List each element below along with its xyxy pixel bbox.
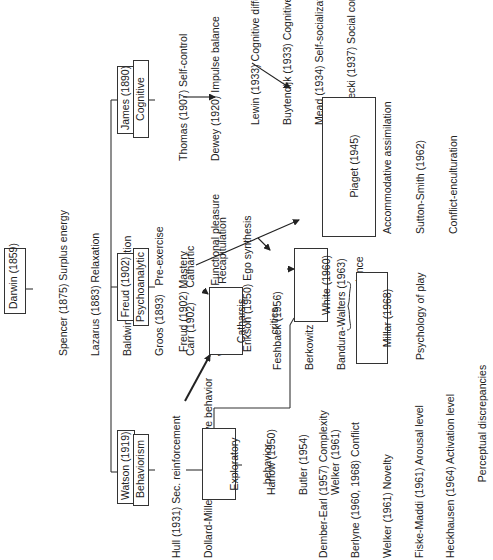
follower: Lewin (1933) Cognitive differentiation — [250, 0, 261, 125]
james-label: James (1890) — [120, 70, 131, 130]
follower: Fiske-Maddi (1961) Arousal level — [414, 365, 425, 558]
exploratory-label: Exploratory — [229, 432, 240, 496]
follower: Welker (1961) Novelty — [382, 365, 393, 558]
catharsis-label: Catharsis — [236, 292, 247, 350]
follower: Hull (1931) Sec. reinforcement — [171, 378, 182, 558]
freud-label: Freud (1902) — [120, 256, 131, 318]
follower: Harlow (1950) — [266, 429, 277, 495]
millar-text: Millar (1968) Psychology of play — [360, 276, 448, 360]
follower: Buytendijk (1933) Cognitive differentiat… — [282, 0, 293, 125]
piaget-text: Piaget (1945) Accommodative assimilation… — [327, 98, 481, 234]
millar-label: Millar (1968) — [382, 276, 393, 360]
watson-label: Watson (1919) — [120, 432, 131, 500]
white-label: White (1960) — [321, 252, 332, 318]
follower: Thomas (1907) Self-control — [178, 16, 189, 161]
piaget-line: Accommodative assimilation — [382, 98, 393, 234]
follower: Freud (1902) Mastery — [178, 194, 189, 352]
darwin-label: Darwin (1859) — [8, 253, 19, 309]
follower: Perceptual discrepancies — [477, 365, 488, 558]
millar-label: Psychology of play — [415, 276, 426, 360]
follower: Spencer (1875) Surplus energy — [58, 210, 69, 356]
follower: Feshback (1956) — [272, 258, 283, 370]
piaget-line: Sutton-Smith (1962) — [415, 98, 426, 234]
follower: Dewey (1920) Impulse balance — [210, 16, 221, 161]
follower: Heckhausen (1964) Activation level — [445, 365, 456, 558]
follower: Lazarus (1883) Relaxation — [90, 210, 101, 356]
arousal-theorists: Dember-Earl (1957) Complexity Berlyne (1… — [297, 365, 493, 558]
cognitive-label: Cognitive — [135, 66, 146, 132]
psychoanalytic-label: Psychoanalytic — [135, 250, 146, 324]
piaget-line: Conflict-enculturation — [448, 98, 459, 234]
follower: Berlyne (1960, 1968) Conflict — [350, 365, 361, 558]
behaviorism-label: Behaviorism — [135, 436, 146, 502]
follower: Dember-Earl (1957) Complexity — [318, 365, 329, 558]
piaget-title: Piaget (1945) — [349, 98, 360, 234]
